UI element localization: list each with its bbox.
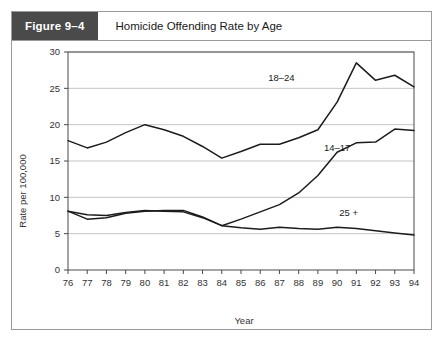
x-tick-label: 94 xyxy=(409,277,420,288)
series-label-25-: 25 + xyxy=(339,207,358,218)
x-tick-label: 76 xyxy=(63,277,74,288)
figure-header: Figure 9–4 Homicide Offending Rate by Ag… xyxy=(12,12,431,41)
figure-title: Homicide Offending Rate by Age xyxy=(98,12,283,40)
x-tick-label: 83 xyxy=(197,277,208,288)
chart-series-labels: 18–2414–1725 + xyxy=(268,72,358,218)
line-chart: 051015202530 767778798081828384858687888… xyxy=(12,41,431,330)
x-tick-label: 93 xyxy=(389,277,400,288)
x-tick-label: 90 xyxy=(332,277,343,288)
figure-card: Figure 9–4 Homicide Offending Rate by Ag… xyxy=(11,11,432,330)
y-tick-label: 20 xyxy=(49,119,60,130)
series-line-25- xyxy=(68,210,414,235)
series-line-18-24 xyxy=(68,63,414,158)
x-tick-label: 85 xyxy=(236,277,247,288)
x-tick-label: 81 xyxy=(159,277,170,288)
x-tick-label: 91 xyxy=(351,277,362,288)
series-label-14-17: 14–17 xyxy=(324,142,350,153)
chart-y-axis-ticks: 051015202530 xyxy=(49,46,68,275)
series-line-14-17 xyxy=(68,129,414,226)
y-tick-label: 15 xyxy=(49,155,60,166)
chart-plot-area: 051015202530 767778798081828384858687888… xyxy=(12,41,431,330)
x-tick-label: 92 xyxy=(370,277,381,288)
y-tick-label: 25 xyxy=(49,83,60,94)
y-tick-label: 30 xyxy=(49,46,60,57)
y-axis-title: Rate per 100,000 xyxy=(17,154,28,227)
x-tick-label: 87 xyxy=(274,277,285,288)
x-tick-label: 79 xyxy=(120,277,131,288)
series-label-18-24: 18–24 xyxy=(268,72,294,83)
x-tick-label: 78 xyxy=(101,277,112,288)
y-tick-label: 0 xyxy=(55,264,60,275)
figure-number-badge: Figure 9–4 xyxy=(12,12,98,40)
x-tick-label: 77 xyxy=(82,277,93,288)
x-tick-label: 89 xyxy=(313,277,324,288)
y-tick-label: 10 xyxy=(49,192,60,203)
x-tick-label: 84 xyxy=(216,277,227,288)
x-tick-label: 86 xyxy=(255,277,266,288)
y-tick-label: 5 xyxy=(55,228,60,239)
x-tick-label: 88 xyxy=(293,277,304,288)
x-tick-label: 82 xyxy=(178,277,189,288)
x-tick-label: 80 xyxy=(140,277,151,288)
x-axis-title: Year xyxy=(234,315,253,326)
chart-x-axis-ticks: 76777879808182838485868788899091929394 xyxy=(63,270,420,288)
